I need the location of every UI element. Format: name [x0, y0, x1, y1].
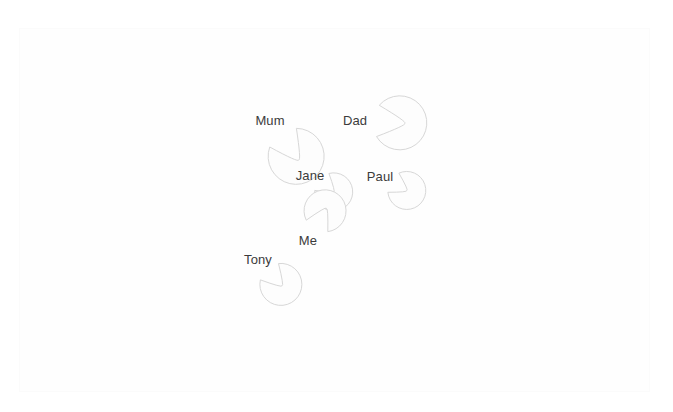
bubble-shape-me	[304, 190, 346, 232]
bubble-label-jane: Jane	[296, 168, 325, 183]
bubble-label-me: Me	[299, 233, 317, 248]
diagram-app: MumDadJanePaulMeTony	[0, 0, 673, 412]
bubble-label-dad: Dad	[343, 113, 367, 128]
bubble-shape-dad	[377, 96, 427, 150]
bubble-dad[interactable]	[377, 96, 427, 150]
bubble-layer	[0, 0, 673, 412]
bubble-shape-tony	[260, 263, 302, 305]
bubble-paul[interactable]	[388, 171, 426, 209]
bubble-label-tony: Tony	[244, 252, 272, 267]
bubble-label-paul: Paul	[367, 169, 393, 184]
bubble-shape-paul	[388, 171, 426, 209]
bubble-me[interactable]	[304, 190, 346, 232]
bubble-tony[interactable]	[260, 263, 302, 305]
bubble-label-mum: Mum	[255, 113, 284, 128]
